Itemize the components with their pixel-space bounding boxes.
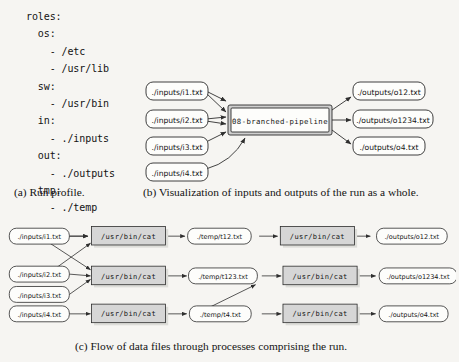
panel-c-input-node: ./inputs/i4.txt — [9, 306, 69, 322]
panel-b-output-node: ./outputs/o4.txt — [353, 137, 425, 155]
panel-b-io-graph: ./inputs/i1.txt ./inputs/i2.txt ./inputs… — [140, 74, 459, 186]
panel-c-dataflow-graph: ./inputs/i1.txt /usr/bin/cat ./temp/t12.… — [4, 214, 456, 336]
figure-root: roles: os: - /etc - /usr/lib sw: - /usr/… — [0, 0, 459, 362]
panel-c-input-label: ./inputs/i4.txt — [18, 311, 62, 319]
panel-c-process-label: /usr/bin/cat — [101, 309, 156, 318]
panel-b-input-node: ./inputs/i4.txt — [146, 163, 208, 181]
panel-c-input-label: ./inputs/i2.txt — [18, 271, 62, 279]
caption-panel-b: (b) Visualization of inputs and outputs … — [143, 186, 419, 198]
panel-c-output-label: ./outputs/o1234.txt — [387, 273, 450, 281]
panel-b-pipeline-node: 08-branched-pipeline — [228, 105, 332, 135]
panel-c-temp-label: ./temp/t12.txt — [197, 233, 243, 241]
panel-b-input-node: ./inputs/i1.txt — [146, 82, 208, 100]
panel-b-output-node: ./outputs/o1234.txt — [353, 110, 433, 128]
panel-c-process-node: /usr/bin/cat — [280, 226, 357, 247]
panel-b-output-node: ./outputs/o12.txt — [353, 82, 425, 100]
panel-c-input-label: ./inputs/i3.txt — [18, 292, 62, 300]
panel-c-temp-node: ./temp/t4.txt — [189, 306, 251, 322]
panel-c-process-node: /usr/bin/cat — [91, 266, 168, 287]
panel-b-input-label: ./inputs/i2.txt — [152, 116, 203, 125]
panel-c-output-node: ./outputs/o12.txt — [377, 228, 448, 244]
panel-c-temp-node: ./temp/t123.txt — [189, 268, 258, 284]
panel-c-process-label: /usr/bin/cat — [101, 272, 156, 281]
panel-b-output-label: ./outputs/o12.txt — [357, 88, 421, 97]
panel-c-process-label: /usr/bin/cat — [292, 309, 347, 318]
panel-c-input-label: ./inputs/i1.txt — [18, 233, 62, 241]
panel-c-temp-label: ./temp/t123.txt — [198, 273, 248, 281]
panel-b-output-label: ./outputs/o4.txt — [360, 143, 419, 152]
caption-panel-c: (c) Flow of data files through processes… — [75, 340, 347, 352]
panel-c-input-node: ./inputs/i1.txt — [9, 228, 69, 244]
panel-c-process-label: /usr/bin/cat — [290, 232, 345, 241]
panel-c-process-label: /usr/bin/cat — [292, 272, 347, 281]
panel-c-output-node: ./outputs/o1234.txt — [379, 268, 456, 284]
panel-b-output-label: ./outputs/o1234.txt — [356, 116, 429, 125]
panel-c-output-label: ./outputs/o12.txt — [385, 233, 440, 241]
panel-b-input-node: ./inputs/i2.txt — [146, 110, 208, 128]
panel-b-pipeline-label: 08-branched-pipeline — [232, 117, 328, 126]
panel-c-process-node: /usr/bin/cat — [283, 304, 360, 325]
panel-b-input-label: ./inputs/i3.txt — [152, 143, 203, 152]
panel-c-process-label: /usr/bin/cat — [101, 232, 156, 241]
panel-c-process-node: /usr/bin/cat — [91, 226, 168, 247]
panel-c-input-node: ./inputs/i3.txt — [9, 286, 69, 302]
panel-c-input-node: ./inputs/i2.txt — [9, 266, 69, 282]
panel-c-process-node: /usr/bin/cat — [283, 266, 360, 287]
panel-b-input-label: ./inputs/i1.txt — [152, 88, 203, 97]
panel-c-temp-node: ./temp/t12.txt — [188, 228, 252, 244]
panel-c-temp-label: ./temp/t4.txt — [200, 311, 242, 319]
panel-c-output-label: ./outputs/o4.txt — [388, 311, 439, 319]
panel-b-input-node: ./inputs/i3.txt — [146, 137, 208, 155]
panel-c-process-node: /usr/bin/cat — [91, 304, 168, 325]
panel-b-input-label: ./inputs/i4.txt — [152, 169, 203, 178]
caption-panel-a: (a) Run profile. — [14, 186, 85, 198]
panel-c-output-node: ./outputs/o4.txt — [379, 306, 448, 322]
